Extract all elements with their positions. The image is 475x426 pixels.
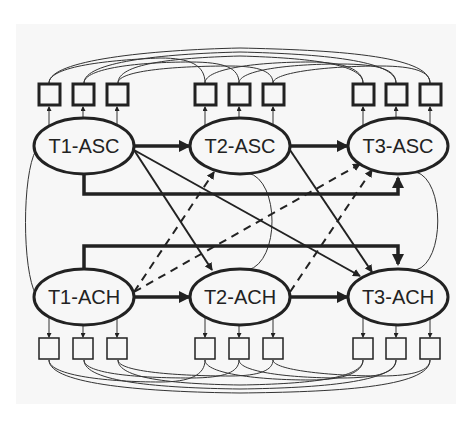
top-indicators xyxy=(39,84,441,105)
indicator-box xyxy=(229,338,249,359)
indicator-box xyxy=(386,84,407,105)
label-t3-ach: T3-ACH xyxy=(362,286,434,308)
indicator-box xyxy=(420,84,441,105)
top-error-covariance-arcs xyxy=(49,48,430,83)
indicator-box xyxy=(107,338,127,359)
indicator-box xyxy=(353,84,374,105)
indicator-box xyxy=(39,338,59,359)
bottom-indicators xyxy=(39,338,440,359)
indicator-box xyxy=(39,84,60,105)
label-t2-asc: T2-ASC xyxy=(204,135,275,157)
indicator-box xyxy=(195,338,215,359)
indicator-box xyxy=(353,338,373,359)
indicator-box xyxy=(73,84,94,105)
label-t3-asc: T3-ASC xyxy=(362,135,433,157)
label-t1-ach: T1-ACH xyxy=(48,286,120,308)
label-t1-asc: T1-ASC xyxy=(48,135,119,157)
indicator-box xyxy=(73,338,93,359)
indicator-box xyxy=(386,338,406,359)
indicator-box xyxy=(195,84,216,105)
indicator-box xyxy=(229,84,250,105)
indicator-box xyxy=(107,84,128,105)
indicator-box xyxy=(420,338,440,359)
lag2-paths xyxy=(84,173,398,269)
indicator-box xyxy=(263,338,283,359)
path-diagram: T1-ASC T2-ASC T3-ASC T1-ACH T2-ACH T3-AC… xyxy=(0,0,475,426)
bottom-error-covariance-arcs xyxy=(49,360,430,393)
label-t2-ach: T2-ACH xyxy=(204,286,276,308)
indicator-box xyxy=(263,84,284,105)
diagram-canvas: T1-ASC T2-ASC T3-ASC T1-ACH T2-ACH T3-AC… xyxy=(0,0,475,426)
